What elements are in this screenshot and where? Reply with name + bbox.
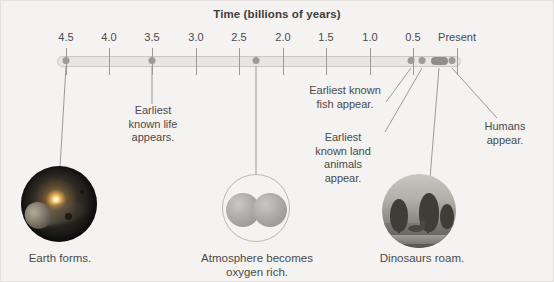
tick-label-3-0: 3.0: [188, 31, 203, 43]
oxygen-atom: [253, 193, 287, 227]
tick-label-2-5: 2.5: [231, 31, 246, 43]
conifer-tree: [390, 199, 408, 232]
caption-oxygen-atmosphere: Atmosphere becomes oxygen rich.: [182, 251, 332, 279]
prehistoric-landscape-photo: [382, 174, 456, 248]
conifer-tree: [440, 204, 454, 229]
forming-earth-photo: [21, 166, 97, 242]
tick-mark-present: [457, 48, 458, 75]
event-marker-earliest-land-animals: [419, 57, 426, 64]
tick-label-2-0: 2.0: [275, 31, 290, 43]
tick-mark-1-5: [326, 48, 327, 75]
crater-spot: [65, 213, 72, 220]
tick-label-present: Present: [438, 31, 476, 43]
tick-mark-2-0: [283, 48, 284, 75]
tick-label-1-5: 1.5: [318, 31, 333, 43]
event-marker-earth-forms: [63, 57, 70, 64]
tick-mark-1-0: [370, 48, 371, 75]
caption-earth-forms: Earth forms.: [11, 251, 109, 265]
crater-spot: [80, 190, 84, 194]
annotation-earliest-land-animals: Earliest known land animals appear.: [300, 131, 386, 185]
tick-label-0-5: 0.5: [405, 31, 420, 43]
event-marker-oxygen-atmosphere: [253, 57, 260, 64]
annotation-earliest-fish: Earliest known fish appear.: [284, 84, 406, 111]
event-marker-earliest-fish: [408, 57, 415, 64]
annotation-humans-appear: Humans appear.: [466, 120, 544, 147]
event-marker-dinosaurs-roam: [431, 57, 448, 65]
tick-mark-3-0: [196, 48, 197, 75]
dinosaur-neck: [420, 220, 425, 229]
tick-mark-4-0: [109, 48, 110, 75]
water: [382, 235, 456, 244]
tick-mark-2-5: [239, 48, 240, 75]
tick-label-4-0: 4.0: [101, 31, 116, 43]
tick-label-4-5: 4.5: [58, 31, 73, 43]
event-marker-earliest-life: [149, 57, 156, 64]
caption-dinosaurs-roam: Dinosaurs roam.: [370, 251, 474, 265]
oxygen-molecule-diagram: [222, 174, 290, 242]
annotation-earliest-life: Earliest known life appears.: [106, 104, 200, 145]
tick-label-3-5: 3.5: [144, 31, 159, 43]
event-marker-humans-appear: [449, 57, 456, 64]
tick-label-1-0: 1.0: [362, 31, 377, 43]
geologic-time-timeline-figure: Time (billions of years) 4.5 4.0 3.5 3.0…: [0, 0, 554, 282]
